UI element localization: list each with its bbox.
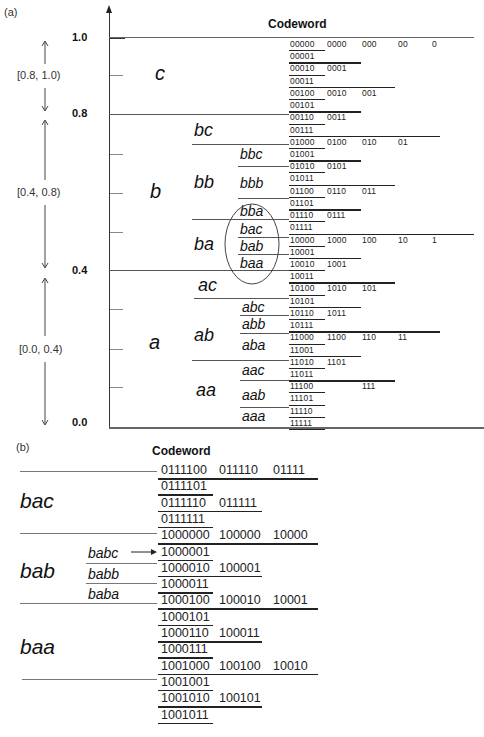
codeword-primary: 0111101 bbox=[161, 479, 207, 493]
codeword-row: 011110001111001111 bbox=[0, 463, 484, 478]
codeword-primary: 1000000 bbox=[161, 528, 210, 542]
codeword-primary: 1000011 bbox=[161, 577, 209, 591]
codeword-row: 100000010000010000 bbox=[0, 528, 484, 543]
codeword-primary: 1000010 bbox=[161, 561, 210, 575]
codeword-prefix: 100011 bbox=[219, 626, 260, 640]
codeword-primary: 0111111 bbox=[161, 512, 205, 526]
codeword-row: 0111110011111 bbox=[0, 496, 484, 511]
codeword-prefix: 100101 bbox=[219, 691, 261, 705]
codeword-primary: 1000111 bbox=[161, 642, 208, 656]
codeword-row: 1000010100001 bbox=[0, 561, 484, 576]
codeword-prefix: 011110 bbox=[219, 463, 258, 477]
codeword-row: 0111101 bbox=[0, 479, 484, 494]
codeword-row: 0111111 bbox=[0, 512, 484, 527]
codeword-prefix: 100000 bbox=[219, 528, 261, 542]
codeword-primary: 1001010 bbox=[161, 691, 210, 705]
codeword-row: 100010010001010001 bbox=[0, 593, 484, 608]
codeword-primary: 1000101 bbox=[161, 610, 210, 624]
codeword-row: 1001001 bbox=[0, 675, 484, 690]
codeword-row: 1001010100101 bbox=[0, 691, 484, 706]
codeword-primary: 1000100 bbox=[161, 593, 210, 607]
codeword-underline bbox=[158, 723, 213, 725]
codeword-prefix: 100001 bbox=[219, 561, 261, 575]
codeword-row: 1000111 bbox=[0, 642, 484, 657]
codeword-primary: 1001001 bbox=[161, 675, 210, 689]
codeword-prefix: 10000 bbox=[273, 528, 308, 542]
codeword-row: 1000101 bbox=[0, 610, 484, 625]
codeword-primary: 1000110 bbox=[161, 626, 209, 640]
codeword-primary: 0111100 bbox=[161, 463, 207, 477]
codeword-primary: 1000001 bbox=[161, 545, 210, 559]
codeword-prefix: 100100 bbox=[219, 659, 261, 673]
codeword-row: 1000110100011 bbox=[0, 626, 484, 641]
codeword-prefix: 100010 bbox=[219, 593, 261, 607]
codeword-primary: 1001000 bbox=[161, 659, 210, 673]
codeword-prefix: 01111 bbox=[273, 463, 305, 477]
codeword-row: 1001011 bbox=[0, 708, 484, 723]
codeword-row: 100100010010010010 bbox=[0, 659, 484, 674]
codeword-prefix: 10010 bbox=[273, 659, 308, 673]
codeword-row: 1000011 bbox=[0, 577, 484, 592]
codeword-prefix: 10001 bbox=[273, 593, 308, 607]
codeword-prefix: 011111 bbox=[219, 496, 257, 510]
codeword-primary: 0111110 bbox=[161, 496, 206, 510]
codeword-row: 1000001 bbox=[0, 545, 484, 560]
codeword-primary: 1001011 bbox=[161, 708, 209, 722]
